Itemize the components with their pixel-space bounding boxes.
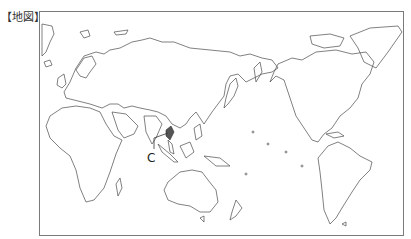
- north-america-landmass: [270, 50, 374, 142]
- malay-peninsula-landmass: [168, 140, 174, 154]
- borneo-landmass: [180, 142, 194, 158]
- caribbean-islands-landmass: [326, 132, 344, 138]
- canadian-arctic-islands-landmass: [310, 34, 344, 48]
- madagascar-landmass: [116, 178, 122, 196]
- south-america-landmass: [318, 142, 372, 224]
- iceland-landmass: [44, 60, 52, 67]
- pacific-island: [252, 131, 254, 133]
- australia-landmass: [164, 170, 218, 212]
- new-guinea-landmass: [204, 156, 230, 166]
- scandinavia-landmass: [76, 56, 96, 78]
- novaya-zemlya-landmass: [114, 30, 128, 35]
- philippines-landmass: [194, 124, 202, 140]
- greenland-landmass: [350, 26, 402, 68]
- pacific-island: [245, 173, 247, 175]
- africa-landmass: [46, 106, 122, 202]
- sumatra-landmass: [158, 144, 178, 162]
- kamchatka-landmass: [254, 62, 262, 82]
- india-landmass: [144, 116, 162, 144]
- world-map: C: [39, 11, 404, 236]
- pacific-island: [301, 165, 303, 167]
- arabian-peninsula-landmass: [112, 112, 138, 138]
- british-isles-landmass: [57, 74, 66, 88]
- world-map-outline: [40, 12, 404, 236]
- pacific-island: [285, 151, 287, 153]
- falkland-islands-landmass: [342, 222, 346, 226]
- greenland-east-landmass: [42, 24, 54, 56]
- new-zealand-landmass: [230, 200, 242, 220]
- japan-landmass: [224, 78, 238, 108]
- tasmania-landmass: [200, 216, 204, 222]
- eurasia-landmass: [64, 38, 278, 128]
- map-label-c: C: [147, 151, 155, 165]
- svalbard-landmass: [80, 30, 90, 38]
- pacific-island: [267, 143, 269, 145]
